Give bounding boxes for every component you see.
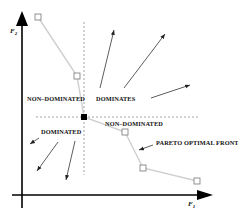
pareto-point [122,129,128,135]
pareto-point [35,14,41,20]
y-axis [16,11,28,208]
pareto-diagram [0,0,238,218]
region-label-upper-left: NON–DOMINATED [27,95,85,102]
region-label-lower-left: DOMINATED [41,128,81,135]
dominates-arrows [100,30,190,98]
pareto-point [140,165,146,171]
reference-point [81,114,87,120]
pareto-front-annotation: PARETO OPTIMAL FRONT [156,139,238,146]
x-axis [12,190,213,200]
dominated-arrows [30,138,75,180]
x-axis-arrow-icon [197,190,213,200]
annotation-arrow-icon [139,145,153,150]
region-label-lower-right: NON–DOMINATED [105,120,163,127]
y-axis-arrow-icon [16,11,28,26]
x-axis-label: F1 [188,200,195,209]
y-axis-label: F2 [10,27,17,36]
pareto-point [194,178,200,184]
pareto-point [74,73,80,79]
region-label-upper-right: DOMINATES [96,95,135,102]
